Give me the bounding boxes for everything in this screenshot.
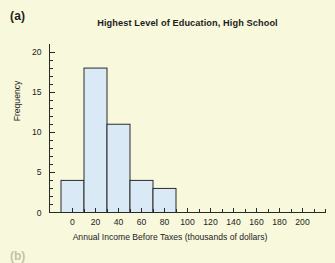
x-tick-label: 60 xyxy=(137,217,147,227)
y-tick-label: 10 xyxy=(32,127,42,137)
y-tick-label: 5 xyxy=(37,167,42,177)
x-tick-labels: 020406080100120140160180200 xyxy=(70,217,310,227)
y-tick-label: 0 xyxy=(37,208,42,218)
next-panel-label: (b) xyxy=(10,249,25,263)
x-tick-label: 20 xyxy=(91,217,101,227)
x-tick-label: 40 xyxy=(114,217,124,227)
x-tick-label: 160 xyxy=(249,217,264,227)
histogram-bar xyxy=(107,124,130,212)
x-tick-label: 80 xyxy=(160,217,170,227)
x-tick-label: 100 xyxy=(180,217,195,227)
bars-group xyxy=(61,68,176,212)
y-tick-labels: 05101520 xyxy=(32,47,42,217)
y-axis xyxy=(50,44,55,213)
x-tick-label: 140 xyxy=(226,217,241,227)
x-tick-label: 180 xyxy=(272,217,287,227)
y-tick-label: 20 xyxy=(32,47,42,57)
x-tick-label: 120 xyxy=(203,217,218,227)
x-tick-label: 200 xyxy=(295,217,310,227)
y-tick-label: 15 xyxy=(32,87,42,97)
x-tick-label: 0 xyxy=(70,217,75,227)
histogram-bar xyxy=(84,68,107,212)
